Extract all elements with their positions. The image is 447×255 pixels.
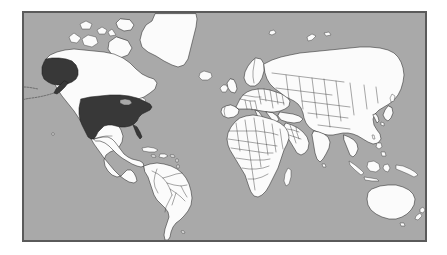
world-map-svg <box>24 13 425 240</box>
tasmania <box>400 223 405 226</box>
hawaii-islet <box>52 133 54 135</box>
lesser-antilles-b <box>177 165 179 168</box>
alaska-highlight <box>42 58 78 85</box>
puerto-rico <box>170 155 175 157</box>
lesser-antilles-a <box>176 159 178 162</box>
philippines-mindanao <box>381 152 386 156</box>
jamaica <box>151 155 156 157</box>
world-map-frame <box>22 11 427 242</box>
figure-page <box>0 0 447 255</box>
